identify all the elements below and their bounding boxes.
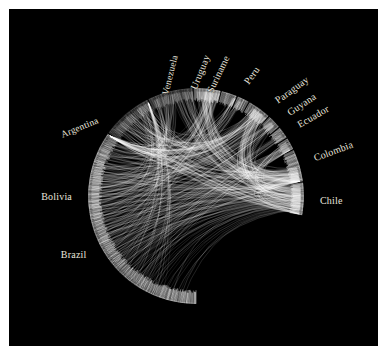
chord-strand (182, 210, 299, 300)
chord-strand (150, 205, 300, 290)
chord-strand (177, 209, 301, 299)
chord-strand (171, 207, 299, 298)
chord-strand (180, 210, 300, 300)
figure-root: BrazilBoliviaArgentinaVenezuelaUruguaySu… (0, 0, 387, 364)
chord-diagram-svg (9, 9, 378, 346)
node-arc[interactable] (219, 91, 236, 107)
chord-diagram-panel: BrazilBoliviaArgentinaVenezuelaUruguaySu… (9, 9, 378, 346)
